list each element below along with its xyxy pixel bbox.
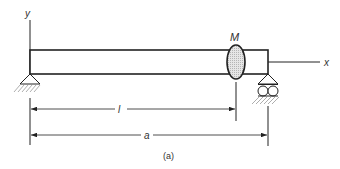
roller-icon [268,86,278,96]
left-pin-support [14,74,40,92]
roller-icon [258,86,268,96]
dimension-a-label: a [144,130,150,141]
dimension-a: a [31,130,267,141]
dimension-l: l [31,104,235,115]
figure-caption: (a) [163,151,174,161]
x-axis-label: x [323,57,330,68]
ground-hatch-icon [252,97,279,104]
dimension-l-label: l [118,104,121,115]
right-roller-support [252,74,279,104]
y-axis-label: y [24,8,31,19]
ground-hatch-icon [14,85,40,92]
point-mass: M [227,31,245,79]
mass-label: M [230,31,240,43]
x-axis: x [268,57,330,68]
beam-diagram: y x M [0,0,340,169]
